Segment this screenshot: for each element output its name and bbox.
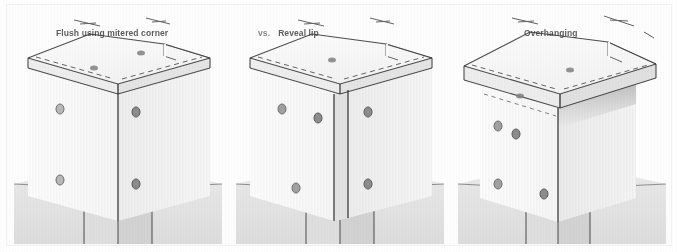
panel-2-artwork <box>236 8 444 244</box>
panel-3-artwork <box>458 8 666 244</box>
leader-marks <box>298 18 394 26</box>
panel-2-label-prefix: vs. <box>258 28 270 38</box>
panel-2-label-text: Reveal lip <box>278 28 319 38</box>
corner-detail-figure: Flush using mitered corner <box>0 0 678 252</box>
panel-1-label-text: Flush using mitered corner <box>56 28 168 38</box>
panel-overhanging: Overhanging <box>458 8 666 244</box>
panel-flush-mitered-corner: Flush using mitered corner <box>14 8 222 244</box>
panel-3-label: Overhanging <box>516 28 578 38</box>
panel-1-artwork <box>14 8 222 244</box>
panel-reveal-lip: vs.Reveal lip <box>236 8 444 244</box>
panel-3-label-text: Overhanging <box>524 28 578 38</box>
leader-marks <box>74 18 170 26</box>
panel-2-label: vs.Reveal lip <box>258 28 319 38</box>
panel-1-label: Flush using mitered corner <box>48 28 168 38</box>
reveal-lip-strip <box>334 90 348 221</box>
